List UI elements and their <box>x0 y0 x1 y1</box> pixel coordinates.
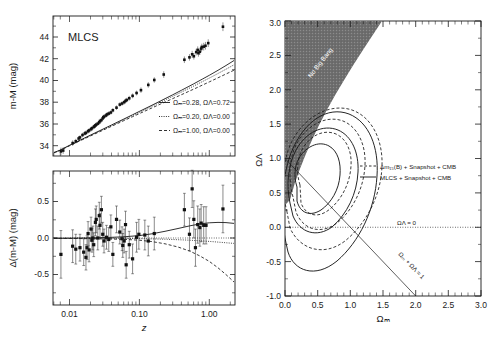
contour-xtick-25: 2.5 <box>442 300 454 310</box>
contour-legend-label-mlcs: MLCS + Snapshot + CMB <box>380 174 451 181</box>
legend-label-eds: Ωₘ=1.00, ΩΛ=0.00 <box>173 127 230 134</box>
hubble-ytick-36: 36 <box>40 119 50 129</box>
residual-ytick-neg05: -0.5 <box>34 269 49 279</box>
hubble-ytick-42: 42 <box>40 54 50 64</box>
contour-xtick-05: 0.5 <box>312 300 324 310</box>
contour-ytick-25: 2.5 <box>269 50 281 60</box>
figure-svg: 34 36 38 40 42 44 m-M (mag) <box>0 0 490 351</box>
hubble-ytick-38: 38 <box>40 97 50 107</box>
figure-canvas: 34 36 38 40 42 44 m-M (mag) <box>0 0 490 351</box>
contour-ytick-15: 1.5 <box>269 119 281 129</box>
residual-ylabel: Δ(m-M) (mag) <box>7 208 18 267</box>
contour-legend-label-dm15: Δm₁₅(B) + Snapshot + CMB <box>380 163 456 170</box>
contour-ytick-05: 0.5 <box>269 188 281 198</box>
contour-ytick-20: 2.0 <box>269 85 281 95</box>
hubble-panel-label: MLCS <box>68 31 99 43</box>
contour-xtick-00: 0.0 <box>279 300 291 310</box>
hubble-ytick-40: 40 <box>40 75 50 85</box>
contour-xtick-20: 2.0 <box>410 300 422 310</box>
lambda-zero-label: ΩΛ = 0 <box>397 219 416 226</box>
hubble-ytick-34: 34 <box>40 141 50 151</box>
contour-xtick-30: 3.0 <box>475 300 487 310</box>
residual-xtick-001: 0.01 <box>61 309 78 319</box>
residual-xtick-010: 0.10 <box>131 309 148 319</box>
contour-ytick-30: 3.0 <box>269 18 281 28</box>
contour-ytick-10: 1.0 <box>269 153 281 163</box>
hubble-ylabel: m-M (mag) <box>7 63 18 109</box>
left-bottom-panel: 0.5 0.0 -0.5 Δ(m-M) (mag) <box>7 170 235 333</box>
contour-xlabel: Ωₘ <box>376 313 389 324</box>
residual-ytick-05: 0.5 <box>37 196 49 206</box>
contour-ytick-neg05: -0.5 <box>266 257 281 267</box>
residual-xtick-100: 1.00 <box>201 309 218 319</box>
residual-xlabel: z <box>141 322 147 333</box>
left-top-panel: 34 36 38 40 42 44 m-M (mag) <box>7 16 235 156</box>
contour-ylabel: ΩΛ <box>253 153 264 167</box>
residual-ytick-00: 0.0 <box>37 233 49 243</box>
contour-ytick-00: 0.0 <box>269 222 281 232</box>
contour-xtick-10: 1.0 <box>344 300 356 310</box>
right-panel: No Big Bang ΩΛ = 0 Ωₘ + ΩΛ = 1 <box>253 18 487 324</box>
contour-xtick-15: 1.5 <box>377 300 389 310</box>
legend-label-open: Ωₘ=0.20, ΩΛ=0.00 <box>173 113 230 120</box>
hubble-ytick-44: 44 <box>40 32 50 42</box>
legend-label-lcdm: Ωₘ=0.28, ΩΛ=0.72 <box>173 99 230 106</box>
